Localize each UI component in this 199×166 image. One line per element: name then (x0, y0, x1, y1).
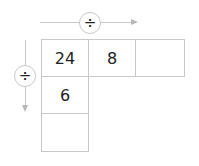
cell-r2c0-blank[interactable] (41, 113, 89, 152)
divide-icon: ÷ (79, 12, 101, 34)
divide-icon: ÷ (14, 65, 36, 87)
cell-r0c2-blank[interactable] (135, 39, 185, 77)
cell-r0c0: 24 (41, 39, 89, 77)
cell-r1c0: 6 (41, 76, 89, 114)
arrow-down-icon (22, 105, 28, 112)
cell-r0c1: 8 (88, 39, 136, 77)
arrow-right-icon (131, 19, 138, 25)
